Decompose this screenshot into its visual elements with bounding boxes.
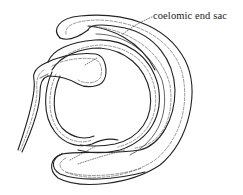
organ-drawing xyxy=(0,0,243,195)
outer-tube xyxy=(52,15,192,184)
middle-tube xyxy=(48,26,165,155)
duct xyxy=(18,62,48,152)
inner-tube xyxy=(46,72,118,146)
end-sac xyxy=(48,53,106,86)
label-coelomic-end-sac: coelomic end sac xyxy=(153,10,227,21)
diagram-figure: coelomic end sac xyxy=(0,0,243,195)
